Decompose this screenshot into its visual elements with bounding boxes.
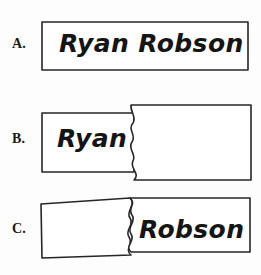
item-label-b: B. (12, 132, 25, 146)
item-label-a: A. (12, 37, 26, 51)
card-a-name-text: Ryan Robson (59, 31, 244, 56)
card-c-last-name-text: Robson (139, 217, 244, 242)
card-b-right-outline (131, 105, 251, 180)
card-b-first-name-text: Ryan (57, 126, 127, 151)
card-c-left-outline (41, 198, 132, 258)
item-label-c: C. (12, 222, 26, 236)
worksheet-figure: A. B. C. Ryan Robson Ryan Robson (0, 0, 261, 275)
